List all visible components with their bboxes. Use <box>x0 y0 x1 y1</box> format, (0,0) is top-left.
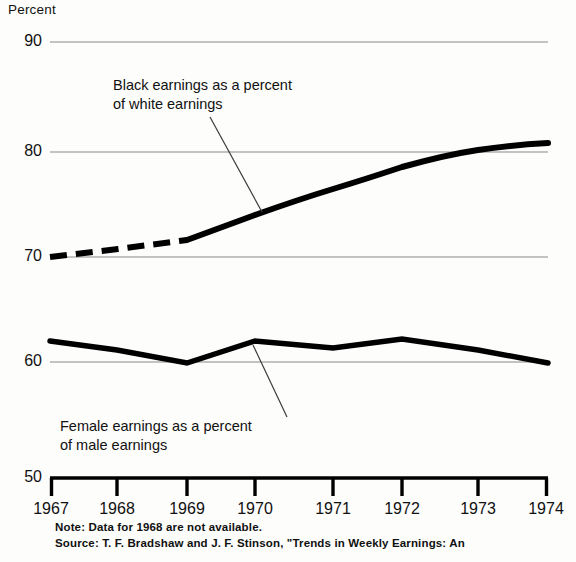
x-tick-label-1969: 1969 <box>157 500 217 518</box>
series-female-male-line <box>50 339 548 363</box>
annotation-female-male-line-1: Female earnings as a percent <box>60 417 252 436</box>
annotation-black-white-line-2: of white earnings <box>113 95 292 114</box>
chart-container: Percent 90 80 70 60 50 <box>0 0 576 562</box>
series-black-white-dashed-segment <box>50 240 187 257</box>
x-axis <box>50 478 548 496</box>
chart-note: Note: Data for 1968 are not available. <box>55 521 262 533</box>
series-black-white-earnings <box>50 143 548 257</box>
x-tick-label-1970: 1970 <box>225 500 285 518</box>
series-female-male-earnings <box>50 339 548 363</box>
x-tick-label-1974: 1974 <box>516 500 576 518</box>
leader-line-female-annotation <box>253 345 287 417</box>
x-tick-label-1971: 1971 <box>303 500 363 518</box>
chart-source: Source: T. F. Bradshaw and J. F. Stinson… <box>55 537 465 549</box>
x-tick-label-1973: 1973 <box>448 500 508 518</box>
series-black-white-solid-segment <box>187 143 548 240</box>
leader-line-black-annotation <box>210 117 262 212</box>
annotation-female-male-earnings: Female earnings as a percent of male ear… <box>60 417 252 455</box>
x-tick-label-1972: 1972 <box>372 500 432 518</box>
annotation-black-white-earnings: Black earnings as a percent of white ear… <box>113 76 292 114</box>
annotation-female-male-line-2: of male earnings <box>60 436 252 455</box>
annotation-black-white-line-1: Black earnings as a percent <box>113 76 292 95</box>
x-tick-label-1967: 1967 <box>21 500 81 518</box>
x-tick-label-1968: 1968 <box>87 500 147 518</box>
